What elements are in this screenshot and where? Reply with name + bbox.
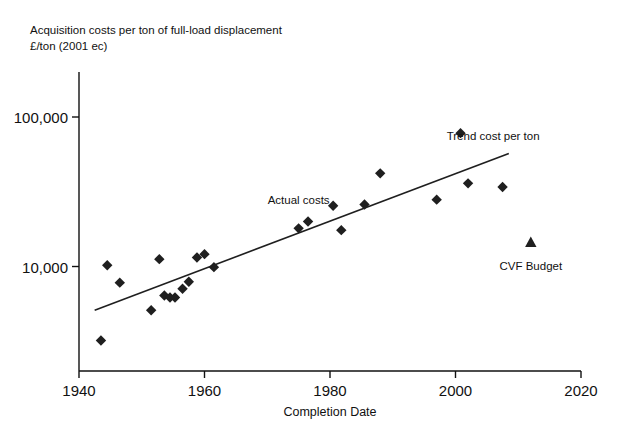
trend-line-label: Trend cost per ton [447, 130, 540, 142]
data-point-diamond [497, 182, 507, 192]
data-point-diamond [336, 225, 346, 235]
data-point-diamond [375, 168, 385, 178]
x-tick-label: 1980 [313, 382, 346, 399]
data-point-diamond [115, 277, 125, 287]
data-point-diamond [184, 277, 194, 287]
data-point-diamond [359, 199, 369, 209]
data-point-diamond [96, 335, 106, 345]
data-point-diamond [102, 260, 112, 270]
y-tick-label: 10,000 [22, 259, 68, 276]
data-point-diamond [431, 194, 441, 204]
data-point-diamond [177, 284, 187, 294]
x-tick-label: 1940 [62, 382, 95, 399]
data-point-diamond [154, 254, 164, 264]
actual-costs-label: Actual costs [268, 194, 330, 206]
x-tick-label: 1960 [188, 382, 221, 399]
data-point-diamond [146, 305, 156, 315]
scatter-plot: 1940196019802000202010,000100,000Actual … [0, 0, 631, 428]
x-axis-label: Completion Date [283, 405, 376, 419]
data-point-triangle [525, 236, 536, 247]
trend-line [95, 154, 509, 311]
x-tick-label: 2020 [564, 382, 597, 399]
cvf-budget-label: CVF Budget [499, 260, 562, 272]
data-point-diamond [463, 178, 473, 188]
y-tick-label: 100,000 [14, 109, 68, 126]
x-tick-label: 2000 [439, 382, 472, 399]
chart-page: Acquisition costs per ton of full-load d… [0, 0, 631, 428]
data-point-diamond [303, 216, 313, 226]
